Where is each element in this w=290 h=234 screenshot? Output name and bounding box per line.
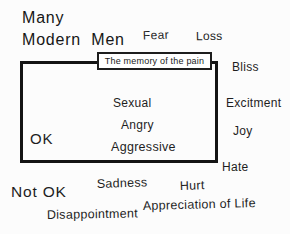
label-fear: Fear <box>143 29 169 44</box>
label-joy: Joy <box>233 125 253 139</box>
label-appreciation-of-life: Appreciation of Life <box>143 196 256 213</box>
label-disappointment: Disappointment <box>47 206 138 222</box>
label-excitment: Excitment <box>226 97 281 111</box>
label-sexual: Sexual <box>113 97 152 111</box>
label-bliss: Bliss <box>232 61 259 75</box>
heading-line-1: Many <box>22 9 64 27</box>
memory-of-pain-diagram: Many Modern Men Fear Loss The memory of … <box>0 0 290 234</box>
label-not-ok: Not OK <box>11 183 67 201</box>
label-sadness: Sadness <box>96 175 147 191</box>
pain-memory-box: The memory of the pain <box>97 52 212 70</box>
heading-line-2: Modern Men <box>22 31 125 49</box>
label-angry: Angry <box>121 119 154 133</box>
label-hurt: Hurt <box>179 178 204 193</box>
pain-memory-box-label: The memory of the pain <box>105 56 204 66</box>
label-aggressive: Aggressive <box>111 140 176 154</box>
label-ok: OK <box>30 130 53 147</box>
label-loss: Loss <box>196 30 223 44</box>
label-hate: Hate <box>222 161 249 175</box>
